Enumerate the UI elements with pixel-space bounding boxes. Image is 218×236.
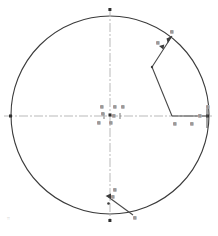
leader-vertex-dot [151, 66, 153, 68]
dim-label-top-right-inner: ▨ [156, 41, 159, 45]
dim-label-bottom-outer: ▨ [133, 216, 136, 220]
upper-right-arrowhead-icon [167, 36, 173, 43]
dim-label-right-lower-left: ▨ [173, 122, 176, 126]
centerline-tick-bottom [108, 219, 111, 222]
dim-label-center-upper-right: ▨ [121, 105, 124, 109]
dim-label-center-mid: ▨ [112, 114, 115, 118]
dim-label-center-upper-left: ▨ [100, 105, 103, 109]
dim-label-bottom-mid: ▨ [111, 195, 114, 199]
dim-label-right-edge: ▨ [206, 105, 209, 109]
dim-label-center-upper-mid: ▨ [113, 105, 116, 109]
dim-label-bottom-upper: ▨ [113, 188, 116, 192]
dim-label-right-lower-mid: ▨ [190, 122, 193, 126]
dim-label-center-left: ▨ [101, 112, 104, 116]
upper-right-mid-arrowhead-icon [159, 45, 164, 50]
bottom-point-marker [107, 202, 110, 205]
dim-label-top-right-outer: ▨ [170, 30, 173, 34]
centerline-tick-top [108, 8, 111, 11]
drawing-canvas: ▨ ▨ ▨ ▨ ▨ ▨ ▨ ▨ ▨ ▨ ▨ ▨ ▨ ▨ ▨ ▨ ⌗ [0, 0, 218, 236]
dim-label-center-lower-mid: ▨ [109, 121, 112, 125]
centerline-tick-left [9, 115, 12, 118]
technical-drawing-svg [0, 0, 218, 236]
bottom-leader-line [107, 196, 133, 215]
corner-mark: ⌗ [7, 215, 10, 222]
dim-label-right-inner: ▨ [198, 114, 201, 118]
dim-label-center-lower-left: ▨ [97, 121, 100, 125]
